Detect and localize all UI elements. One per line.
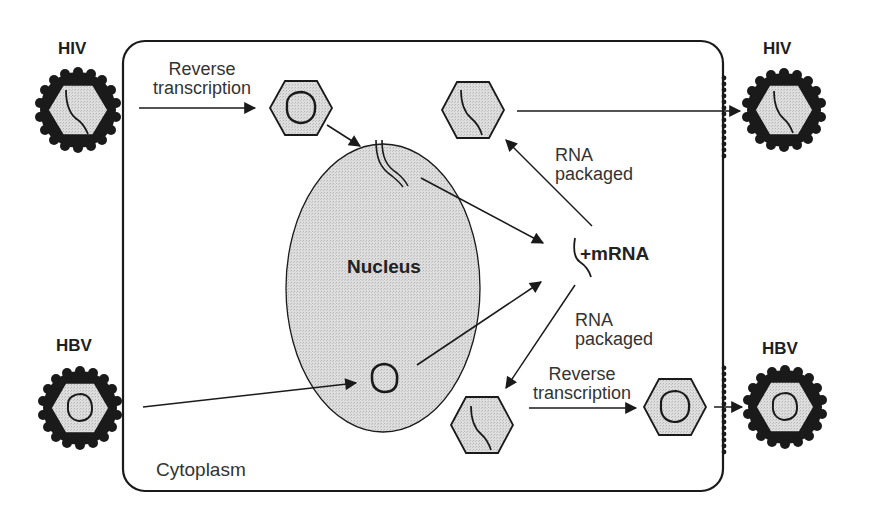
hiv-virion-out [742,68,826,152]
nucleus [286,144,480,432]
hbv-capsid-rna [451,397,513,453]
label-line: RNA [575,311,653,330]
label-line: Reverse [142,60,262,79]
hbv-in-label: HBV [56,337,92,355]
hbv-out-label: HBV [762,340,798,358]
membrane-budding-knobs-bottom [722,366,727,455]
hbv-virion-out [743,365,827,449]
label-line: packaged [555,165,633,184]
hiv-capsid-dna [270,81,332,135]
hiv-out-label: HIV [763,40,791,58]
label-line: transcription [142,79,262,98]
label-line: transcription [524,384,640,403]
arrow-to-nucleus-hiv [327,125,360,146]
label-line: RNA [555,146,633,165]
cytoplasm-label: Cytoplasm [156,460,246,480]
mrna-label: +mRNA [580,244,649,264]
label-line: Reverse [524,365,640,384]
hiv-in-label: HIV [58,40,86,58]
hbv-capsid-dna [644,379,706,435]
hiv-capsid-rna [442,82,504,138]
hiv-virion-in [35,67,121,153]
nucleus-label: Nucleus [347,257,421,277]
hiv-rna-packaged-label: RNA packaged [555,146,633,184]
hiv-reverse-transcription-label: Reverse transcription [142,60,262,98]
hbv-rna-packaged-label: RNA packaged [575,311,653,349]
label-line: packaged [575,330,653,349]
hbv-virion-in [38,366,122,450]
diagram-canvas [0,0,870,515]
hbv-reverse-transcription-label: Reverse transcription [524,365,640,403]
